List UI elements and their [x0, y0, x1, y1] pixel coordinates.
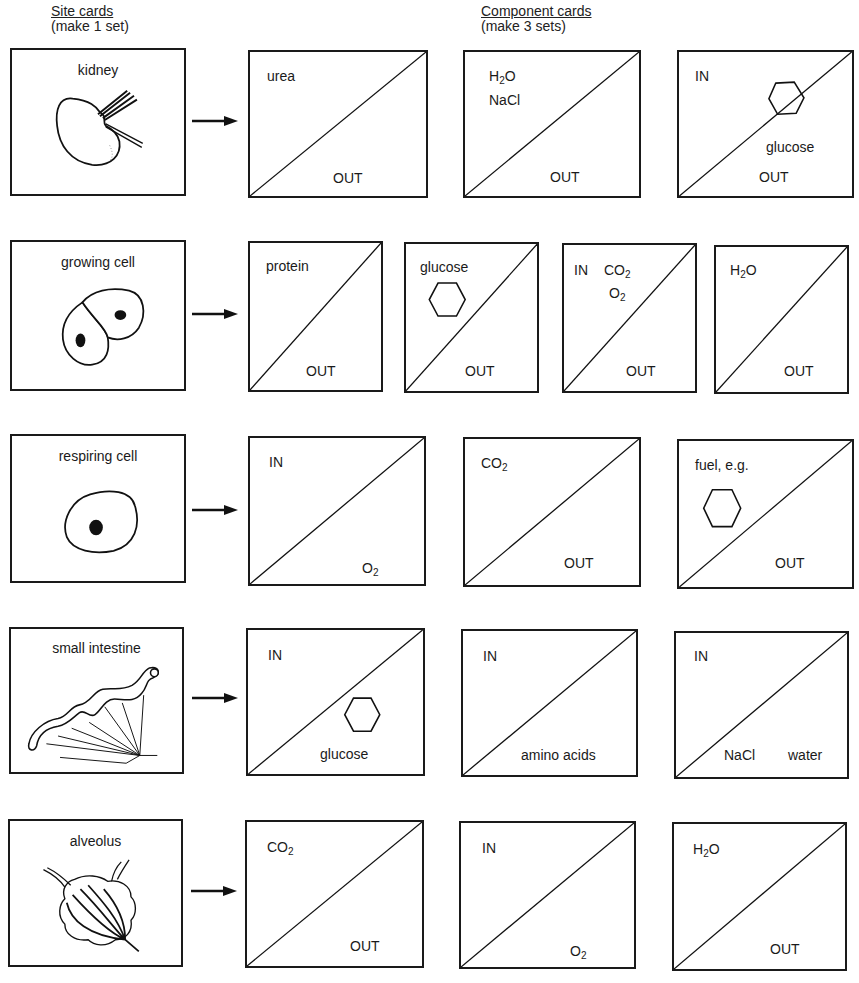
component-card: fuel, e.g. OUT [677, 439, 854, 589]
arrow-icon [192, 504, 238, 516]
site-card-small-intestine: small intestine [9, 627, 184, 774]
component-card: H2O NaCl OUT [463, 50, 641, 198]
card-top-label: IN [695, 68, 709, 84]
card-bottom-label: OUT [626, 363, 656, 379]
arrow-icon [192, 692, 238, 704]
card-bottom-left-label: NaCl [724, 747, 755, 763]
card-top-label: CO2 [267, 839, 294, 857]
card-bottom-label: glucose [320, 746, 368, 762]
card-top-label-2: O2 [609, 285, 625, 303]
site-card-growing-cell: growing cell [10, 240, 186, 391]
card-top-label: fuel, e.g. [695, 457, 749, 473]
card-bottom-label: OUT [784, 363, 814, 379]
dividing-cell-icon [12, 242, 184, 389]
card-top-label: protein [266, 258, 309, 274]
card-top-label: IN [269, 454, 283, 470]
site-card-respiring-cell: respiring cell [10, 434, 186, 583]
site-card-alveolus: alveolus [8, 819, 183, 967]
kidney-icon [12, 50, 184, 194]
cell-icon [12, 436, 184, 581]
site-cards-heading: Site cards (make 1 set) [51, 4, 129, 34]
card-top-label: IN [574, 262, 588, 278]
card-top-label: IN [483, 648, 497, 664]
card-bottom-label: OUT [770, 941, 800, 957]
arrow-icon [191, 885, 237, 897]
card-bottom-label: OUT [333, 170, 363, 186]
component-card: IN CO2 O2 OUT [562, 243, 697, 393]
component-card: CO2 OUT [245, 820, 424, 968]
component-cards-heading: Component cards (make 3 sets) [481, 4, 592, 34]
component-card: CO2 OUT [463, 437, 641, 587]
card-bottom-label: OUT [775, 555, 805, 571]
component-card: IN O2 [248, 436, 426, 586]
component-card: IN amino acids [461, 629, 638, 777]
card-bottom-label: OUT [550, 169, 580, 185]
arrow-icon [192, 308, 238, 320]
component-cards-subtitle: (make 3 sets) [481, 19, 592, 34]
card-top-label: IN [482, 840, 496, 856]
card-top-label: CO2 [481, 455, 508, 473]
card-top-label: glucose [420, 259, 468, 275]
card-bottom-label: OUT [465, 363, 495, 379]
card-top-label-2: NaCl [489, 92, 520, 108]
component-card: H2O OUT [714, 245, 849, 394]
component-card: IN NaCl water [674, 631, 849, 779]
card-top-label: urea [267, 68, 295, 84]
card-top-label: H2O [489, 68, 516, 86]
card-bottom-label: OUT [759, 169, 789, 185]
component-card: IN glucose [246, 628, 425, 776]
component-card: IN O2 [459, 821, 636, 969]
card-bottom-label: amino acids [521, 747, 596, 763]
card-bottom-label: water [788, 747, 822, 763]
card-top-label: H2O [693, 841, 720, 859]
site-cards-title: Site cards [51, 4, 129, 19]
site-card-kidney: kidney [10, 48, 186, 196]
intestine-icon [11, 629, 182, 772]
card-bottom-label: OUT [564, 555, 594, 571]
alveolus-icon [10, 821, 181, 965]
site-cards-subtitle: (make 1 set) [51, 19, 129, 34]
component-card: glucose OUT [404, 242, 539, 393]
card-top-label: H2O [730, 262, 757, 280]
card-top-label-b: CO2 [604, 262, 631, 280]
card-bottom-label: OUT [350, 938, 380, 954]
component-cards-title: Component cards [481, 4, 592, 19]
component-card: urea OUT [248, 50, 428, 198]
arrow-icon [192, 115, 238, 127]
card-top-label: IN [694, 648, 708, 664]
component-card: IN glucose OUT [677, 50, 854, 198]
component-card: protein OUT [248, 241, 383, 392]
card-mid-label: glucose [766, 139, 814, 155]
component-card: H2O OUT [672, 822, 847, 971]
card-top-label: IN [268, 647, 282, 663]
card-bottom-label: OUT [306, 363, 336, 379]
card-bottom-label: O2 [570, 943, 586, 961]
card-bottom-label: O2 [362, 560, 378, 578]
